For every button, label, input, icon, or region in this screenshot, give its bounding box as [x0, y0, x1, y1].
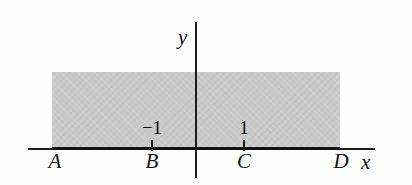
point-label-c: C: [237, 151, 251, 172]
y-axis-line: [195, 22, 197, 178]
coordinate-axis-figure: y x −1 1 A B C D: [0, 0, 412, 185]
point-label-d: D: [333, 151, 348, 172]
tick-label-negative-one: −1: [142, 118, 162, 137]
point-label-a: A: [49, 151, 62, 172]
tick-label-positive-one: 1: [239, 118, 249, 137]
y-axis-label: y: [178, 27, 187, 48]
point-label-b: B: [146, 151, 159, 172]
x-axis-label: x: [361, 152, 370, 173]
